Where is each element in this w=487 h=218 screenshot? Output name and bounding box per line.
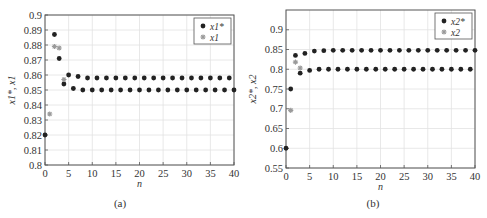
data-point	[118, 88, 123, 93]
x-tick-label: 40	[229, 168, 240, 179]
data-point	[123, 76, 128, 81]
data-point	[378, 48, 383, 53]
y-axis-ticks: 0.80.810.820.830.840.850.860.870.880.890…	[24, 10, 48, 171]
legend-label: x1*	[209, 22, 224, 32]
data-point	[340, 48, 345, 53]
data-point	[293, 60, 298, 65]
x-tick-label: 25	[158, 168, 169, 179]
data-point	[298, 65, 303, 70]
figure: 0.80.810.820.830.840.850.860.870.880.890…	[0, 0, 487, 218]
x-axis-label: n	[137, 178, 142, 189]
data-point	[213, 88, 218, 93]
data-point	[458, 67, 463, 72]
data-point	[402, 67, 407, 72]
y-tick-label: 0.87	[24, 55, 42, 66]
data-point	[406, 48, 411, 53]
y-tick-label: 0.88	[24, 40, 42, 51]
x-tick-label: 40	[470, 171, 481, 182]
data-point	[288, 87, 293, 92]
x-tick-label: 15	[111, 168, 122, 179]
data-point	[416, 48, 421, 53]
data-point	[435, 48, 440, 53]
data-point	[165, 88, 170, 93]
legend-dot-icon	[442, 19, 447, 24]
data-point	[388, 48, 393, 53]
data-point	[369, 48, 374, 53]
data-point	[47, 111, 52, 116]
x-axis-label: n	[378, 181, 383, 192]
y-tick-label: 0.8	[270, 64, 283, 75]
y-tick-label: 0.9	[270, 24, 283, 35]
data-point	[473, 48, 478, 53]
x-tick-label: 30	[182, 168, 193, 179]
data-point	[284, 146, 289, 151]
data-point	[62, 82, 67, 87]
data-point	[175, 88, 180, 93]
data-point	[66, 73, 71, 78]
y-axis-label: x2*, x2	[247, 75, 258, 105]
data-point	[113, 76, 118, 81]
data-point	[354, 67, 359, 72]
x-tick-label: 0	[283, 171, 288, 182]
legend: x2*x2	[435, 13, 472, 39]
data-point	[43, 133, 48, 138]
x-tick-label: 5	[66, 168, 71, 179]
x-tick-label: 10	[328, 171, 339, 182]
data-point	[440, 67, 445, 72]
data-point	[147, 88, 152, 93]
x-tick-label: 35	[205, 168, 216, 179]
data-point	[85, 76, 90, 81]
legend-label: x1	[209, 33, 219, 43]
y-axis-label: x1*, x1	[6, 76, 17, 106]
figure-canvas: 0.80.810.820.830.840.850.860.870.880.890…	[0, 0, 487, 218]
data-point	[90, 88, 95, 93]
y-tick-label: 0.6	[270, 143, 283, 154]
data-point	[95, 76, 100, 81]
data-point	[194, 88, 199, 93]
data-point	[104, 76, 109, 81]
legend: x1*x1	[194, 18, 231, 44]
data-point	[307, 68, 312, 73]
data-point	[156, 88, 161, 93]
data-point	[421, 67, 426, 72]
data-point	[71, 86, 76, 91]
x-tick-label: 0	[42, 168, 47, 179]
data-point	[326, 67, 331, 72]
data-point	[232, 88, 237, 93]
data-point	[57, 56, 62, 61]
data-point	[217, 76, 222, 81]
data-point	[132, 76, 137, 81]
y-tick-label: 0.83	[24, 115, 42, 126]
data-point	[288, 108, 293, 113]
data-point	[170, 76, 175, 81]
data-point	[142, 76, 147, 81]
y-tick-label: 0.85	[265, 44, 283, 55]
panel-caption: (a)	[114, 197, 127, 210]
data-point	[189, 76, 194, 81]
data-point	[321, 48, 326, 53]
y-axis-ticks: 0.550.60.650.70.750.80.850.9	[265, 24, 289, 173]
x-tick-label: 15	[352, 171, 363, 182]
legend-label: x2*	[450, 17, 465, 27]
data-point	[444, 48, 449, 53]
data-point	[128, 88, 133, 93]
data-point	[345, 67, 350, 72]
legend-star-icon	[441, 29, 446, 34]
data-point	[293, 53, 298, 58]
data-point	[61, 77, 66, 82]
data-point	[80, 88, 85, 93]
y-tick-label: 0.7	[270, 103, 283, 114]
legend-star-icon	[200, 34, 205, 39]
data-point	[184, 88, 189, 93]
data-point	[298, 71, 303, 76]
data-point	[468, 67, 473, 72]
y-tick-label: 0.65	[265, 123, 283, 134]
data-point	[331, 48, 336, 53]
data-point	[57, 45, 62, 50]
y-tick-label: 0.81	[24, 145, 42, 156]
chart-panel-b: 0.550.60.650.70.750.80.850.9 05101520253…	[247, 10, 480, 210]
data-point	[137, 88, 142, 93]
data-point	[430, 67, 435, 72]
data-point	[52, 44, 57, 49]
data-point	[303, 51, 308, 56]
